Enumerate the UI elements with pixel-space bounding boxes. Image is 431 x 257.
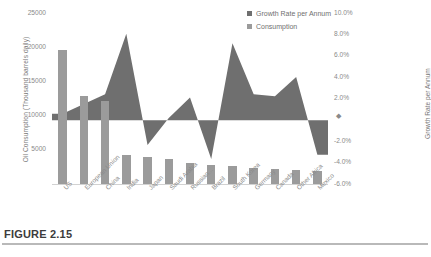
figure-caption-block: FIGURE 2.15	[0, 228, 430, 245]
y2-tick-6: 6.0%	[334, 51, 374, 58]
y-axis-title: Oil Consumption (Thousand barrels daily)	[22, 15, 29, 185]
figure-caption: FIGURE 2.15	[0, 228, 430, 240]
y2-tick-neg4: -4.0%	[334, 158, 374, 165]
y-tick-25000: 25000	[6, 9, 46, 16]
y-tick-5000: 5000	[6, 145, 46, 152]
y2-tick-4: 4.0%	[334, 73, 374, 80]
y2-tick-neg2: -2.0%	[334, 137, 374, 144]
plot-region	[52, 12, 328, 185]
y-tick-10000: 10000	[6, 111, 46, 118]
y2-tick-neg6: -6.0%	[334, 180, 374, 187]
y2-tick-2: 2.0%	[334, 94, 374, 101]
bar-european-union[interactable]	[80, 96, 88, 185]
bar-us[interactable]	[58, 50, 66, 185]
y2-tick-8: 8.0%	[334, 30, 374, 37]
y2-tick-10: 10.0%	[334, 9, 374, 16]
secondary-y-axis-title: Growth Rate per Annum	[424, 29, 431, 179]
chart-canvas: Oil Consumption (Thousand barrels daily)…	[0, 0, 430, 222]
y2-tick-zero-marker: ◆	[336, 112, 341, 120]
caption-divider	[2, 243, 428, 245]
x-axis-category-labels: USEuropean UnionChinaIndiaJapanSaudi Ara…	[52, 186, 328, 232]
y-tick-15000: 15000	[6, 77, 46, 84]
y-tick-20000: 20000	[6, 43, 46, 50]
consumption-bar-series	[52, 12, 328, 185]
